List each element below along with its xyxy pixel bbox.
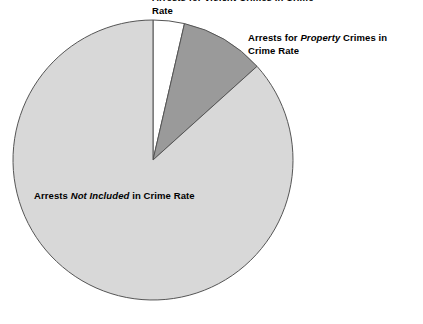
label-violent-prefix: Arrests for <box>152 0 204 3</box>
label-property-crimes: Arrests for Property Crimes in Crime Rat… <box>248 32 408 57</box>
pie-chart-figure: Arrests for Violent Crimes in Crime Rate… <box>0 0 423 324</box>
label-property-emphasis: Property <box>300 32 340 43</box>
label-not-included-suffix: in Crime Rate <box>129 190 194 201</box>
label-not-included: Arrests Not Included in Crime Rate <box>34 190 244 203</box>
label-property-prefix: Arrests for <box>248 32 300 43</box>
label-not-included-prefix: Arrests <box>34 190 71 201</box>
label-violent-emphasis: Violent <box>204 0 236 3</box>
pie-slices <box>13 20 293 300</box>
label-violent-crimes: Arrests for Violent Crimes in Crime Rate <box>152 0 332 17</box>
label-not-included-emphasis: Not Included <box>71 190 130 201</box>
